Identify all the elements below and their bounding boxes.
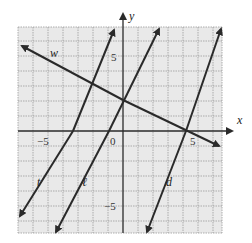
tick-x-neg5: −5 [37,135,49,147]
x-axis-label: x [236,113,243,127]
tick-y-5: 5 [111,51,117,63]
coordinate-plane: x y −5 0 5 5 −5 w t ℓ d [0,0,252,243]
label-l: ℓ [82,175,87,189]
label-w: w [50,46,58,60]
label-d: d [166,175,173,189]
y-axis-label: y [128,9,135,23]
tick-x-5: 5 [190,135,196,147]
grid-background [18,27,222,233]
tick-y-neg5: −5 [104,200,116,212]
tick-x-0: 0 [110,135,116,147]
